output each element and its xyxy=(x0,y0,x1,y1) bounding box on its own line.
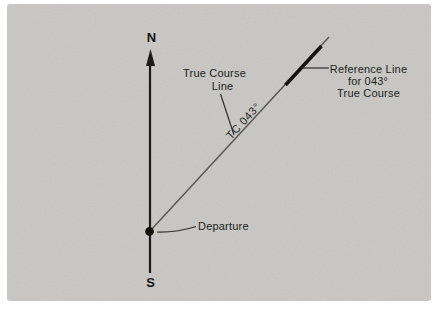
reference-label-line1: Reference Line xyxy=(330,63,407,75)
reference-label-line2: for 043° xyxy=(348,75,388,87)
reference-label-line3: True Course xyxy=(337,87,400,99)
diagram-canvas: N S TC 043° True Course Line Reference L… xyxy=(0,0,434,314)
north-label: N xyxy=(147,30,156,45)
south-label: S xyxy=(146,275,155,290)
departure-point xyxy=(145,227,154,236)
true-course-label-line1: True Course xyxy=(183,67,246,79)
navigation-course-figure: N S TC 043° True Course Line Reference L… xyxy=(0,0,434,314)
paper-grain-texture xyxy=(7,4,431,301)
departure-label: Departure xyxy=(198,220,249,232)
true-course-label-line2: Line xyxy=(212,80,234,92)
